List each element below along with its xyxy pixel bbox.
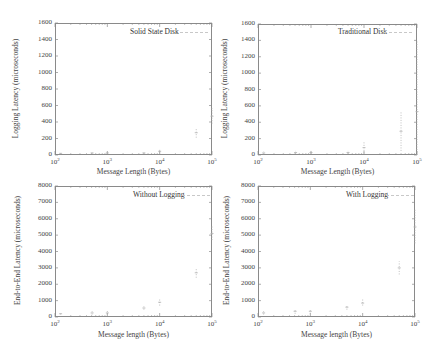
x-tick-label: 102 [45, 157, 65, 166]
y-tick-label: 4000 [24, 247, 52, 255]
y-tick-label: 800 [24, 84, 52, 92]
y-tick-label: 1200 [24, 51, 52, 59]
x-tick-label: 103 [97, 157, 117, 166]
data-points-layer [0, 0, 438, 358]
y-tick-label: 600 [227, 101, 255, 109]
y-tick-label: 1000 [227, 296, 255, 304]
y-tick-label: 1000 [227, 68, 255, 76]
x-tick-label: 104 [150, 319, 170, 328]
y-tick-label: 8000 [227, 181, 255, 189]
y-tick-label: 1200 [227, 52, 255, 60]
y-tick-label: 1400 [227, 35, 255, 43]
x-tick-label: 104 [354, 157, 374, 166]
x-tick-label: 105 [202, 157, 222, 166]
x-tick-label: 102 [248, 319, 268, 328]
y-tick-label: 7000 [227, 197, 255, 205]
y-tick-label: 2000 [227, 279, 255, 287]
y-tick-label: 400 [24, 117, 52, 125]
y-tick-label: 4000 [227, 247, 255, 255]
y-tick-label: 5000 [24, 230, 52, 238]
y-tick-label: 6000 [24, 214, 52, 222]
x-tick-label: 105 [405, 319, 425, 328]
x-tick-label: 103 [300, 319, 320, 328]
x-tick-label: 103 [301, 157, 321, 166]
y-tick-label: 2000 [24, 279, 52, 287]
y-tick-label: 3000 [227, 263, 255, 271]
x-tick-label: 105 [202, 319, 222, 328]
y-tick-label: 5000 [227, 230, 255, 238]
x-tick-label: 104 [150, 157, 170, 166]
y-tick-label: 1600 [24, 18, 52, 26]
y-tick-label: 1600 [227, 19, 255, 27]
x-tick-label: 102 [45, 319, 65, 328]
y-tick-label: 400 [227, 117, 255, 125]
y-tick-label: 8000 [24, 181, 52, 189]
y-tick-label: 3000 [24, 263, 52, 271]
x-tick-label: 103 [97, 319, 117, 328]
y-tick-label: 800 [227, 85, 255, 93]
y-tick-label: 1400 [24, 35, 52, 43]
x-tick-label: 105 [407, 157, 427, 166]
y-tick-label: 200 [227, 134, 255, 142]
y-tick-label: 200 [24, 134, 52, 142]
x-tick-label: 102 [248, 157, 268, 166]
x-tick-label: 104 [353, 319, 373, 328]
y-tick-label: 600 [24, 101, 52, 109]
y-tick-label: 7000 [24, 197, 52, 205]
y-tick-label: 1000 [24, 68, 52, 76]
y-tick-label: 1000 [24, 296, 52, 304]
y-tick-label: 6000 [227, 214, 255, 222]
